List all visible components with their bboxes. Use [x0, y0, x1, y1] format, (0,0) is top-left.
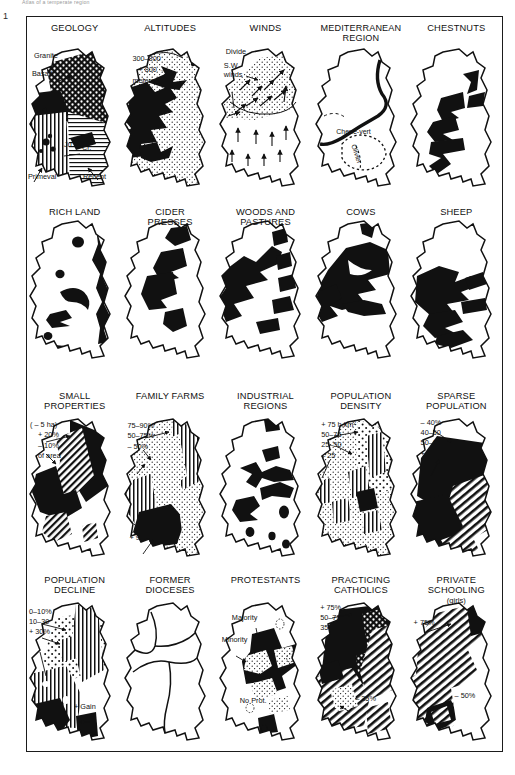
map-woods-pastures[interactable]	[218, 201, 313, 385]
map-sheep[interactable]	[409, 201, 504, 385]
legend-primeval: Primeval	[28, 172, 56, 181]
legend-basalt: Basalt	[32, 69, 52, 78]
map-shape-chestnuts	[409, 46, 504, 196]
legend-recent: Recent	[83, 172, 106, 181]
legend-practicing-catholics: + 75% 50–75 35–50	[320, 603, 341, 634]
legend-popden-class3: 25–50	[321, 440, 356, 450]
panel-family-farms[interactable]: FAMILY FARMS	[122, 385, 217, 569]
panel-sheep[interactable]: SHEEP	[409, 201, 504, 385]
panel-practicing-catholics[interactable]: PRACTICING CATHOLICS	[313, 569, 408, 753]
olivier-boundary	[342, 135, 386, 170]
legend-popdecl-class3: + 30%	[29, 627, 52, 637]
legend-family-class3: – 50%	[127, 442, 154, 452]
legend-private-class2: – 50%	[455, 691, 476, 700]
legend-granite: Granite	[34, 51, 58, 60]
figure-number: 1	[3, 11, 8, 21]
legend-sparse-population: – 40% 40–50 50–60 + 60%	[421, 418, 442, 459]
panel-cows[interactable]: COWS	[313, 201, 408, 385]
legend-private-class1: + 75%	[414, 618, 435, 627]
legend-protestant-majority: Majority	[232, 613, 258, 622]
legend-small-class2: – 10%	[30, 441, 61, 451]
legend-catholics-class3: 35–50	[320, 623, 341, 633]
legend-small-size: ( – 5 ha)	[30, 420, 61, 430]
map-small-properties[interactable]	[27, 385, 122, 569]
panel-woods-pastures[interactable]: WOODS AND PASTURES	[218, 201, 313, 385]
legend-catholics-class4: – 35%	[355, 694, 376, 703]
map-shape-woods-pastures	[218, 218, 313, 368]
legend-small-class1: + 20%	[30, 430, 61, 440]
panel-cider-presses[interactable]: CIDER PRESSES	[122, 201, 217, 385]
legend-altitude-high: + 800 →	[132, 64, 166, 75]
map-protestants[interactable]	[218, 569, 313, 753]
legend-popden-class1: + 75 h.km²	[321, 420, 356, 430]
map-rich-land[interactable]	[27, 201, 122, 385]
panel-geology[interactable]: GEOLOGY	[27, 17, 122, 201]
map-mediterranean[interactable]	[313, 17, 408, 201]
legend-family-farms: 75–90% 50–75% – 50%	[127, 421, 154, 452]
panel-former-dioceses[interactable]: FORMER DIOCESES	[122, 569, 217, 753]
legend-sparse-class4: + 60%	[421, 449, 442, 459]
map-shape-mediterranean	[313, 46, 408, 196]
legend-chene-vert: Chene-vert	[336, 127, 371, 136]
legend-sparse-class3: 50–60	[421, 438, 442, 448]
map-cows[interactable]	[313, 201, 408, 385]
map-former-dioceses[interactable]	[122, 569, 217, 753]
legend-catholics-class2: 50–75	[320, 613, 341, 623]
legend-population-decline: 0–10% 10–30 + 30%	[29, 607, 52, 638]
map-grid: GEOLOGY	[27, 17, 504, 753]
map-shape-sheep	[409, 218, 504, 368]
legend-popden-class4: – 25	[321, 451, 356, 461]
map-population-decline[interactable]	[27, 569, 122, 753]
legend-family-class4: + 90%	[129, 533, 150, 542]
panel-industrial-regions[interactable]: INDUSTRIAL REGIONS	[218, 385, 313, 569]
legend-popdecl-class1: 0–10%	[29, 607, 52, 617]
map-shape-rich-land	[27, 218, 122, 368]
map-shape-protestants	[218, 600, 313, 750]
legend-sw-winds: S.W. winds	[224, 61, 243, 79]
map-population-density[interactable]	[313, 385, 408, 569]
legend-family-class1: 75–90%	[127, 421, 154, 431]
legend-sw-line1: S.W.	[224, 61, 243, 70]
legend-altitude-unit: meters	[132, 75, 166, 86]
legend-sw-line2: winds	[224, 70, 243, 79]
panel-private-schooling[interactable]: PRIVATE SCHOOLING (girls)	[409, 569, 504, 753]
panel-rich-land[interactable]: RICH LAND	[27, 201, 122, 385]
legend-divide: Divide	[226, 47, 246, 56]
map-altitudes[interactable]	[122, 17, 217, 201]
map-practicing-catholics[interactable]	[313, 569, 408, 753]
legend-popden-class2: 50–75	[321, 430, 356, 440]
legend-small-properties: ( – 5 ha) + 20% – 10% of area	[30, 420, 61, 462]
map-shape-former-dioceses	[122, 600, 217, 750]
legend-popdecl-gain: + Gain	[74, 702, 96, 711]
panel-protestants[interactable]: PROTESTANTS	[218, 569, 313, 753]
panel-mediterranean[interactable]: MEDITERRANEAN REGION Chene-vert Olivier	[313, 17, 408, 201]
panel-winds[interactable]: WINDS	[218, 17, 313, 201]
figure-frame: GEOLOGY	[26, 16, 503, 752]
map-private-schooling[interactable]	[409, 569, 504, 753]
panel-population-decline[interactable]: POPULATION DECLINE	[27, 569, 122, 753]
panel-small-properties[interactable]: SMALL PROPERTIES	[27, 385, 122, 569]
legend-family-class2: 50–75%	[127, 431, 154, 441]
legend-sparse-class2: 40–50	[421, 428, 442, 438]
legend-popdecl-class2: 10–30	[29, 617, 52, 627]
map-cider-presses[interactable]	[122, 201, 217, 385]
legend-population-density: + 75 h.km² 50–75 25–50 – 25	[321, 420, 356, 461]
map-shape-cows	[313, 218, 408, 368]
panel-altitudes[interactable]: ALTITUDES 300–800 + 800 → me	[122, 17, 217, 201]
map-industrial-regions[interactable]	[218, 385, 313, 569]
legend-cretaceous: Cr.	[82, 143, 91, 152]
panel-sparse-population[interactable]: SPARSE POPULATION	[409, 385, 504, 569]
legend-altitudes: 300–800 + 800 → meters	[132, 53, 166, 86]
panel-chestnuts[interactable]: CHESTNUTS	[409, 17, 504, 201]
panel-population-density[interactable]: POPULATION DENSITY	[313, 385, 408, 569]
map-shape-cider-presses	[122, 218, 217, 368]
legend-no-protestants: No Prot.	[240, 696, 267, 705]
legend-jurassic: Ju.	[64, 140, 74, 149]
map-winds[interactable]	[218, 17, 313, 201]
map-chestnuts[interactable]	[409, 17, 504, 201]
legend-small-of-area: of area	[30, 451, 61, 461]
legend-sparse-class1: – 40%	[421, 418, 442, 428]
legend-catholics-class1: + 75%	[320, 603, 341, 613]
legend-protestant-minority: Minority	[222, 635, 248, 644]
map-sparse-population[interactable]	[409, 385, 504, 569]
